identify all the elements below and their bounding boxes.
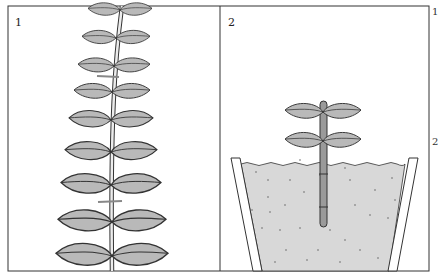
cut-mark-upper	[97, 76, 119, 77]
panel-label-2: 2	[228, 16, 235, 29]
margin-label-2: 2	[432, 136, 438, 147]
margin-label-1: 1	[432, 6, 438, 17]
cut-mark-lower	[98, 201, 122, 202]
panel-label-1: 1	[15, 16, 22, 29]
panel-1-stem	[112, 6, 122, 271]
